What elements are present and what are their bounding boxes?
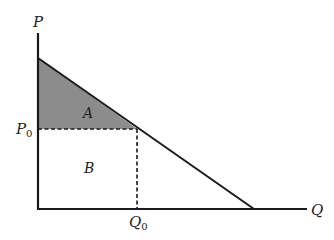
diagram-canvas: P Q P0 Q0 A B xyxy=(0,0,334,240)
demand-curve xyxy=(38,58,254,209)
price-p0-label: P0 xyxy=(15,120,32,139)
region-a-label: A xyxy=(81,105,93,121)
y-axis-label: P xyxy=(32,13,44,31)
quantity-q0-label: Q0 xyxy=(129,213,148,232)
region-b-label: B xyxy=(83,160,94,176)
x-axis-label: Q xyxy=(311,201,323,219)
